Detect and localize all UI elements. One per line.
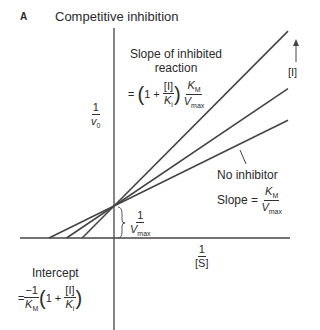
inhibitor-arrowhead	[293, 39, 299, 46]
no-inhibitor-slope: Slope = KMVmax	[217, 186, 282, 215]
x-intercept-equation: =−1KM(1 + [I]Ki)	[18, 285, 82, 312]
slope-inhibited-annotation: Slope of inhibited reaction	[126, 47, 226, 75]
y-intercept-label: 1Vmax	[130, 210, 151, 237]
slope-inhibited-line2: reaction	[126, 61, 226, 75]
inhibitor-arrow-label: [I]	[288, 66, 297, 78]
slope-inhibited-line1: Slope of inhibited	[126, 47, 226, 61]
chart-title: Competitive inhibition	[55, 9, 179, 24]
no-inhibitor-pointer	[240, 150, 246, 164]
y-intercept-brace	[118, 207, 125, 238]
x-axis-label: 1[S]	[195, 244, 208, 269]
y-axis-label: 1v0	[91, 102, 100, 129]
slope-inhibited-equation: = (1 + [I]Ki) KMVmax	[128, 80, 204, 109]
panel-letter: A	[20, 11, 27, 22]
no-inhibitor-label: No inhibitor	[217, 168, 278, 182]
x-intercept-label: Intercept	[32, 266, 79, 280]
